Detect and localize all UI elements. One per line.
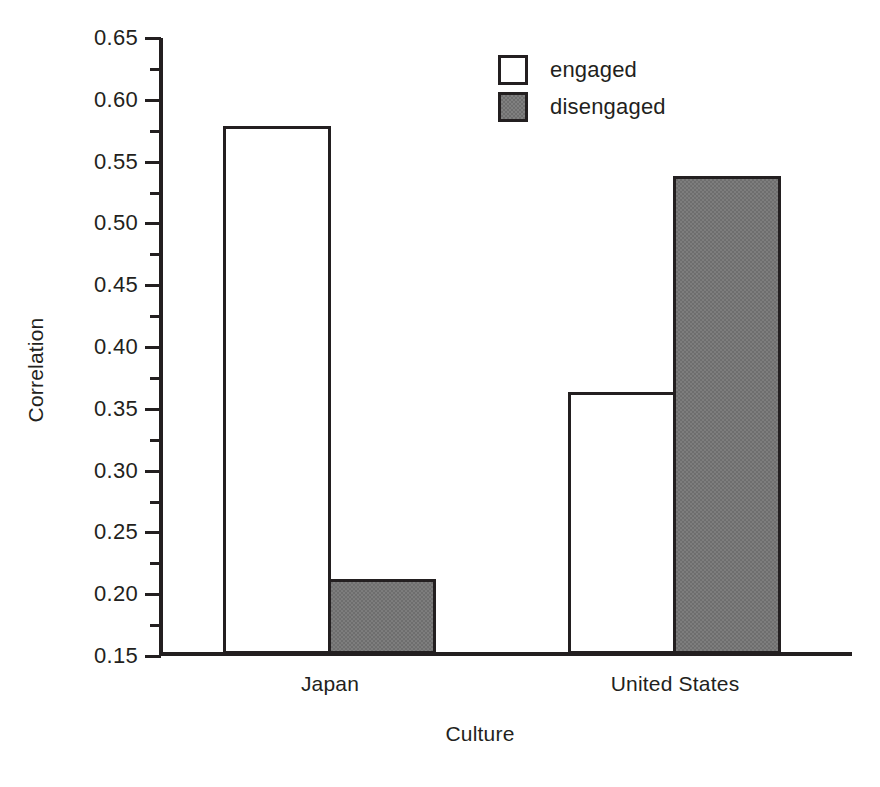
y-tick-label: 0.20	[44, 581, 138, 607]
y-tick-major	[145, 222, 161, 225]
legend-item-engaged: engaged	[498, 55, 666, 85]
y-tick-label: 0.30	[44, 458, 138, 484]
y-tick-minor	[150, 624, 161, 627]
y-tick-minor	[150, 130, 161, 133]
y-tick-major	[145, 655, 161, 658]
y-tick-major	[145, 408, 161, 411]
y-tick-minor	[150, 439, 161, 442]
y-tick-major	[145, 346, 161, 349]
bar-japan-disengaged	[328, 579, 436, 654]
bar-united-states-engaged	[568, 392, 676, 654]
y-tick-minor	[150, 192, 161, 195]
y-tick-label: 0.65	[44, 25, 138, 51]
y-axis-tick-labels: 0.650.600.550.500.450.400.350.300.250.20…	[44, 0, 138, 787]
y-tick-minor	[150, 377, 161, 380]
x-tick-label: United States	[611, 672, 740, 696]
y-tick-major	[145, 470, 161, 473]
chart-legend: engaged disengaged	[498, 55, 666, 122]
bar-united-states-disengaged	[673, 176, 781, 654]
x-axis-title: Culture	[160, 722, 800, 746]
y-tick-major	[145, 284, 161, 287]
legend-swatch-engaged	[498, 55, 528, 85]
y-tick-major	[145, 593, 161, 596]
y-tick-label: 0.55	[44, 149, 138, 175]
bar-japan-engaged	[223, 126, 331, 654]
y-tick-major	[145, 99, 161, 102]
y-tick-label: 0.25	[44, 519, 138, 545]
plot-area	[159, 38, 852, 656]
y-tick-label: 0.50	[44, 210, 138, 236]
y-tick-major	[145, 37, 161, 40]
legend-item-disengaged: disengaged	[498, 92, 666, 122]
y-tick-label: 0.40	[44, 334, 138, 360]
y-tick-label: 0.35	[44, 396, 138, 422]
y-tick-minor	[150, 501, 161, 504]
y-tick-minor	[150, 68, 161, 71]
legend-label-disengaged: disengaged	[550, 94, 666, 120]
legend-label-engaged: engaged	[550, 57, 637, 83]
y-tick-minor	[150, 315, 161, 318]
y-tick-major	[145, 531, 161, 534]
y-tick-major	[145, 161, 161, 164]
y-tick-minor	[150, 562, 161, 565]
y-tick-label: 0.15	[44, 643, 138, 669]
x-tick-label: Japan	[301, 672, 359, 696]
y-tick-minor	[150, 253, 161, 256]
legend-swatch-disengaged	[498, 92, 528, 122]
bar-chart-figure: Correlation 0.650.600.550.500.450.400.35…	[0, 0, 880, 787]
y-tick-label: 0.60	[44, 87, 138, 113]
y-tick-label: 0.45	[44, 272, 138, 298]
